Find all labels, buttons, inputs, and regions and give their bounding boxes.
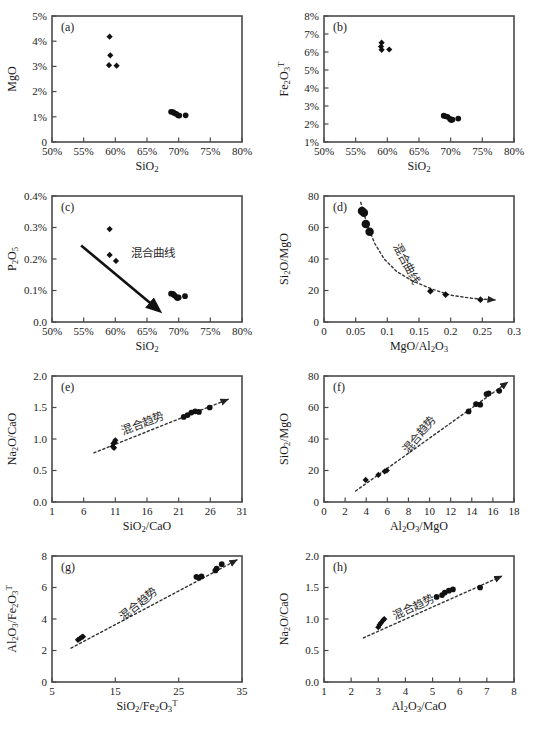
y-tick-label: 60 [308,221,320,233]
y-tick-label: 0 [42,676,48,688]
y-axis-title: Fe2O3T [276,61,292,96]
mixing-annotation-label: 混合曲线 [391,241,424,287]
data-point [196,409,202,415]
figure-root: 50%55%60%65%70%75%80%01%2%3%4%5%SiO2MgO(… [0,0,550,730]
x-tick-label: 0.1 [380,325,394,337]
x-tick-label: 5 [430,685,436,697]
y-tick-label: 6 [42,581,48,593]
x-tick-label: 26 [205,505,217,517]
series-circle [441,113,461,123]
x-tick-label: 1 [321,685,327,697]
plot-frame [52,556,242,682]
x-tick-label: 21 [173,505,184,517]
y-axis-title: Si2O/MgO [277,233,292,285]
x-axis-title: SiO2 [135,339,158,354]
x-tick-label: 0 [321,325,327,337]
x-tick-label: 12 [445,505,456,517]
panel-tag: (a) [61,20,74,34]
data-point [477,585,483,591]
y-axis-title: Al2O3/Fe2O3T [4,585,20,653]
x-tick-label: 65% [137,325,157,337]
y-tick-label: 60 [308,401,320,413]
series-diamond [363,467,390,483]
panel-e: 1611162126310.00.51.01.52.0SiO2/CaONa2O/… [0,360,272,542]
x-tick-label: 2 [342,505,348,517]
x-tick-label: 0.2 [444,325,458,337]
y-tick-label: 1% [304,136,319,148]
x-tick-label: 6 [385,505,391,517]
y-axis-title: Na2O/CaO [277,592,292,645]
series-diamond [106,34,120,69]
y-tick-label: 0.0 [305,676,319,688]
panel-g: 515253502468SiO2/Fe2O3TAl2O3/Fe2O3T(g)混合… [0,540,272,722]
x-tick-label: 55% [74,325,94,337]
y-tick-label: 0.0 [33,316,47,328]
panel-a: 50%55%60%65%70%75%80%01%2%3%4%5%SiO2MgO(… [0,0,272,182]
y-tick-label: 3% [304,100,319,112]
x-tick-label: 80% [232,325,252,337]
mixing-curve [361,202,495,300]
y-tick-label: 6% [304,46,319,58]
series-circle [168,291,188,301]
series-circle [434,585,483,600]
x-tick-label: 10 [424,505,436,517]
data-point [477,296,484,303]
panel-d: 00.050.10.150.20.250.3020406080MgO/Al2O3… [272,180,544,362]
y-tick-label: 0.1% [24,284,47,296]
y-tick-label: 0.0 [33,496,47,508]
panel-f: 024681012141618020406080Al2O3/MgOSiO2/Mg… [272,360,544,542]
y-tick-label: 5% [32,10,47,22]
y-tick-label: 0.3% [24,221,47,233]
series-diamond [107,226,120,264]
y-tick-label: 80 [308,190,320,202]
data-point [176,295,182,301]
series-circle [466,388,502,414]
mixing-trend-line [71,560,237,648]
y-tick-label: 40 [308,433,320,445]
y-tick-label: 7% [304,28,319,40]
plot-frame [324,196,514,322]
x-tick-label: 8 [406,505,412,517]
series-circle [168,109,188,118]
x-tick-label: 60% [105,145,125,157]
y-tick-label: 1.5 [305,581,319,593]
y-tick-label: 0.5 [305,644,319,656]
x-tick-label: 0.25 [473,325,493,337]
x-tick-label: 60% [377,145,397,157]
y-tick-label: 1% [32,111,47,123]
x-tick-label: 75% [200,325,220,337]
y-tick-label: 40 [308,253,320,265]
data-point [214,566,220,572]
panel-tag: (c) [61,200,74,214]
plot-frame [52,16,242,142]
data-point [183,112,189,118]
x-tick-label: 2 [348,685,354,697]
x-axis-title: SiO2 [407,159,430,174]
x-tick-label: 70% [441,145,461,157]
panel-tag: (g) [61,560,75,574]
data-point [199,574,205,580]
mixing-annotation-label: 混合趋势 [400,413,439,456]
mixing-annotation-label: 混合趋势 [117,584,160,622]
y-tick-label: 20 [308,284,320,296]
plot-frame [324,556,514,682]
series-circle [194,561,225,580]
data-point [365,228,373,236]
y-tick-label: 3% [32,60,47,72]
y-tick-label: 2% [32,85,47,97]
y-tick-label: 4% [32,35,47,47]
x-tick-label: 65% [137,145,157,157]
data-point [107,226,113,232]
data-point [114,63,120,69]
data-point [182,293,188,299]
data-point [455,116,461,122]
x-tick-label: 3 [376,685,382,697]
y-tick-label: 2.0 [33,370,47,382]
x-tick-label: 75% [200,145,220,157]
panel-tag: (h) [333,560,347,574]
data-point [107,252,113,258]
y-tick-label: 4 [42,613,48,625]
x-tick-label: 5 [49,685,55,697]
x-tick-label: 4 [363,505,369,517]
x-tick-label: 80% [504,145,524,157]
